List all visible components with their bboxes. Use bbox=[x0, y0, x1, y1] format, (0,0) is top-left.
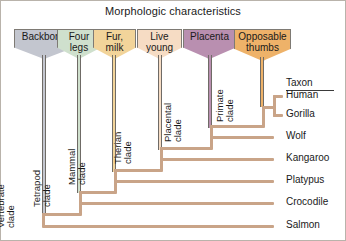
character-label-placenta: Placenta bbox=[184, 32, 235, 43]
taxon-platypus: Platypus bbox=[286, 174, 324, 185]
taxon-salmon: Salmon bbox=[286, 219, 320, 230]
branch-placental-to-primate bbox=[210, 125, 265, 128]
clade-label-vertebrate: Vertebrate clade bbox=[0, 184, 16, 228]
taxon-column-header: Taxon bbox=[286, 77, 313, 88]
stem-placenta bbox=[208, 55, 212, 128]
branch-therian-to-kangaroo bbox=[160, 158, 274, 161]
branch-tetrapod-to-mammal bbox=[79, 191, 117, 194]
taxon-wolf: Wolf bbox=[286, 130, 306, 141]
clade-label-tetrapod: Tetrapod clade bbox=[32, 170, 52, 207]
clade-label-placental: Placental clade bbox=[163, 103, 183, 142]
taxon-human: Human bbox=[286, 89, 318, 100]
clade-label-therian: Therian clade bbox=[113, 132, 133, 164]
branch-placental-to-wolf bbox=[210, 136, 274, 139]
character-label-fur-milk-2: milk bbox=[94, 43, 135, 54]
branch-to-gorilla bbox=[273, 114, 283, 117]
branch-mammal-to-platypus bbox=[114, 180, 274, 183]
branch-root-to-salmon bbox=[42, 225, 274, 228]
character-label-live-young-1: Live bbox=[138, 32, 181, 43]
figure-title: Morphologic characteristics bbox=[1, 5, 345, 17]
cladogram-figure: Morphologic characteristics Backbone Fou… bbox=[0, 0, 346, 241]
branch-to-human bbox=[273, 95, 283, 98]
clade-label-mammal: Mammal clade bbox=[67, 149, 87, 185]
taxon-kangaroo: Kangaroo bbox=[286, 152, 329, 163]
taxon-gorilla: Gorilla bbox=[286, 108, 315, 119]
branch-tetrapod-to-crocodile bbox=[79, 202, 274, 205]
branch-mammal-to-therian bbox=[114, 169, 163, 172]
character-label-opposable-thumbs-2: thumbs bbox=[235, 43, 290, 54]
branch-primate-vertical bbox=[262, 106, 265, 127]
character-label-live-young-2: young bbox=[138, 43, 181, 54]
character-label-opposable-thumbs-1: Opposable bbox=[235, 32, 290, 43]
taxon-crocodile: Crocodile bbox=[286, 196, 328, 207]
clade-label-primate: Primate clade bbox=[215, 89, 235, 122]
character-label-fur-milk-1: Fur, bbox=[94, 32, 135, 43]
branch-therian-to-placental bbox=[160, 147, 213, 150]
branch-vertebrate-to-tetrapod bbox=[42, 213, 82, 216]
stem-opposable-thumbs bbox=[260, 57, 264, 107]
